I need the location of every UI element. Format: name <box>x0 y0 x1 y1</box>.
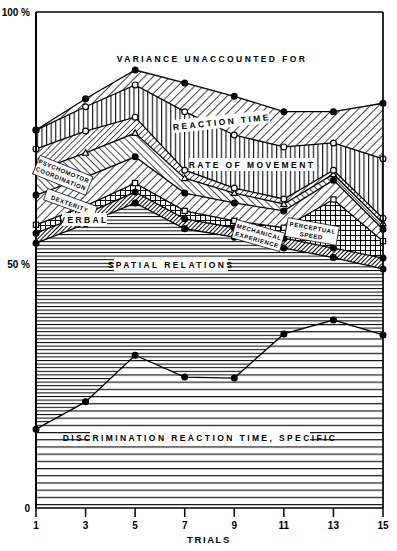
variance-area-chart: 13579111315 100 % 50 % 0 TRIALS VARIANCE… <box>0 0 397 551</box>
data-point <box>182 167 188 173</box>
y-axis-mid-label: 50 % <box>7 259 30 270</box>
data-point <box>132 200 138 206</box>
data-point <box>281 144 287 150</box>
x-tick-label: 13 <box>328 520 340 531</box>
data-point <box>83 104 89 110</box>
label-rate-of-movement-group: RATE OF MOVEMENT <box>189 158 316 171</box>
label-spatial-relations-group: SPATIAL RELATIONS <box>108 258 235 271</box>
data-point <box>331 140 337 146</box>
data-point <box>231 185 237 191</box>
data-point <box>182 226 188 232</box>
x-tick-label: 15 <box>377 520 389 531</box>
x-axis-ticks: 13579111315 <box>33 508 389 531</box>
x-tick-label: 9 <box>232 520 238 531</box>
y-axis-top-label: 100 % <box>2 7 30 18</box>
label-verbal-group: VERBAL <box>59 213 108 226</box>
label-spatial-relations: SPATIAL RELATIONS <box>108 260 235 270</box>
data-point <box>133 181 138 186</box>
label-discrimination-group: DISCRIMINATION REACTION TIME, SPECIFIC <box>63 431 338 444</box>
data-point <box>231 132 237 138</box>
data-point <box>231 93 237 99</box>
data-point <box>231 375 237 381</box>
data-point <box>132 114 138 120</box>
data-point <box>182 190 188 196</box>
data-point <box>331 317 337 323</box>
data-point <box>281 245 287 251</box>
data-point <box>83 128 89 134</box>
data-point <box>182 109 188 115</box>
label-rate-of-movement: RATE OF MOVEMENT <box>189 160 316 170</box>
data-point <box>281 331 287 337</box>
data-point <box>182 216 188 222</box>
data-point <box>331 177 337 183</box>
label-verbal: VERBAL <box>59 215 108 225</box>
data-point <box>132 352 138 358</box>
x-axis-title: TRIALS <box>187 534 231 545</box>
data-point <box>182 374 188 380</box>
label-discrimination-reaction-time: DISCRIMINATION REACTION TIME, SPECIFIC <box>63 433 338 443</box>
data-point <box>182 80 188 86</box>
data-point <box>83 96 89 102</box>
data-point <box>331 255 337 261</box>
data-point <box>331 109 337 115</box>
y-axis-zero-label: 0 <box>24 503 30 514</box>
label-variance-unaccounted: VARIANCE UNACCOUNTED FOR <box>117 54 308 64</box>
x-tick-label: 5 <box>132 520 138 531</box>
x-tick-label: 1 <box>33 520 39 531</box>
data-point <box>132 154 138 160</box>
data-point <box>281 109 287 115</box>
x-tick-label: 11 <box>279 520 290 531</box>
data-point <box>331 197 336 202</box>
data-point <box>132 67 138 73</box>
data-point <box>132 82 138 88</box>
data-point <box>132 189 138 195</box>
data-point <box>331 245 337 251</box>
data-point <box>331 167 337 173</box>
data-point <box>231 200 237 206</box>
chart-figure: 13579111315 100 % 50 % 0 TRIALS VARIANCE… <box>0 0 397 551</box>
data-point <box>281 208 287 214</box>
x-tick-label: 7 <box>182 520 188 531</box>
x-tick-label: 3 <box>83 520 89 531</box>
data-point <box>83 399 89 405</box>
data-point <box>182 208 187 213</box>
data-point <box>281 196 287 202</box>
